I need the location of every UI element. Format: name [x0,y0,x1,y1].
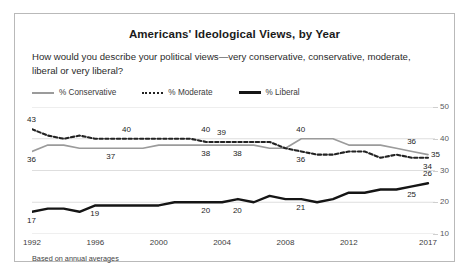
data-point-label: 35 [431,150,440,159]
data-point-label: 40 [122,125,131,134]
y-axis-tick-label: 40 [440,134,462,143]
y-axis-tick-mark [433,139,438,140]
data-point-label: 36 [27,155,36,164]
y-axis-tick-mark [433,107,438,108]
legend-swatch-moderate-icon [142,92,163,94]
data-point-label: 39 [217,128,226,137]
legend-item-conservative[interactable]: % Conservative [32,88,116,97]
page-title: Americans' Ideological Views, by Year [15,28,454,40]
legend-swatch-liberal-icon [239,91,261,94]
y-axis-tick-label: 10 [440,229,462,238]
y-axis-tick-label: 30 [440,166,462,175]
x-axis-tick-label: 2000 [139,238,179,247]
data-point-label: 43 [27,115,36,124]
data-point-label: 17 [27,216,36,225]
data-point-label: 19 [90,209,99,218]
legend-swatch-conservative-icon [32,92,54,94]
data-point-label: 36 [407,137,416,146]
legend-label-conservative: % Conservative [59,88,116,97]
x-axis-tick-label: 2004 [202,238,242,247]
data-point-label: 21 [296,203,305,212]
series-line [32,129,428,158]
chart-subtitle: How would you describe your political vi… [32,50,432,77]
x-axis-tick-label: 2012 [329,238,369,247]
legend-label-moderate: % Moderate [168,88,212,97]
legend-item-moderate[interactable]: % Moderate [142,88,212,97]
series-line [32,183,428,212]
y-axis-tick-label: 20 [440,197,462,206]
source-note: Based on annual averages [32,254,119,263]
data-point-label: 40 [296,125,305,134]
x-axis-tick-label: 2008 [265,238,305,247]
y-axis-tick-mark [433,234,438,235]
data-point-label: 38 [233,149,242,158]
data-point-label: 20 [201,206,210,215]
data-point-label: 36 [296,155,305,164]
data-point-label: 20 [233,206,242,215]
x-axis-tick-label: 2017 [408,238,448,247]
data-point-label: 26 [423,169,432,178]
y-axis-tick-mark [433,202,438,203]
legend-item-liberal[interactable]: % Liberal [239,88,300,97]
data-point-label: 25 [407,190,416,199]
x-axis-tick-label: 1992 [12,238,52,247]
y-axis-tick-label: 50 [440,102,462,111]
chart-legend: % Conservative % Moderate % Liberal [32,88,300,97]
data-point-label: 38 [201,149,210,158]
data-point-label: 40 [201,125,210,134]
legend-label-liberal: % Liberal [266,88,300,97]
data-point-label: 37 [106,152,115,161]
x-axis-tick-label: 1996 [75,238,115,247]
y-axis-tick-mark [433,171,438,172]
chart-card: Americans' Ideological Views, by Year Ho… [14,13,455,262]
